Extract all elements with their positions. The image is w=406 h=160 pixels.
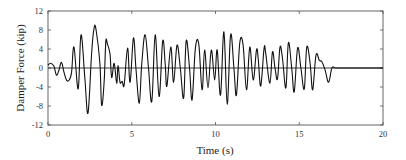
y-tick-label: 12 <box>35 6 44 16</box>
x-axis-title: Time (s) <box>196 144 234 157</box>
damper-force-chart: 12840-4-8-12 05101520 Time (s) Damper Fo… <box>0 0 406 160</box>
y-tick-label: -4 <box>36 82 44 92</box>
x-tick-label: 5 <box>130 129 134 139</box>
x-tick-label: 15 <box>295 129 304 139</box>
y-axis-title: Damper Force (kip) <box>14 24 27 112</box>
x-tick-label: 20 <box>379 129 388 139</box>
y-tick-label: -12 <box>32 120 43 130</box>
y-tick-label: 8 <box>39 25 43 35</box>
damper-force-series-line <box>48 25 383 114</box>
x-tick-label: 0 <box>46 129 50 139</box>
x-axis-ticks: 05101520 <box>46 11 387 139</box>
y-tick-label: 4 <box>39 44 44 54</box>
y-tick-label: 0 <box>39 63 43 73</box>
y-tick-label: -8 <box>36 101 43 111</box>
x-tick-label: 10 <box>211 129 220 139</box>
